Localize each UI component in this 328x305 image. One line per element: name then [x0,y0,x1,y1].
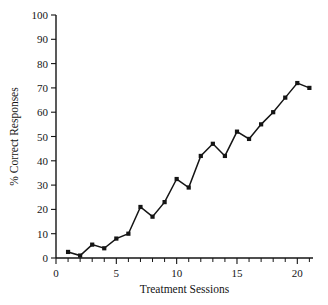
data-point [307,86,311,90]
data-point [66,250,70,254]
y-tick-label: 30 [37,179,49,191]
data-point [211,142,215,146]
data-line [68,83,309,256]
y-tick-label: 70 [37,82,49,94]
data-point [102,246,106,250]
data-point [187,185,191,189]
data-point [259,122,263,126]
data-point [78,253,82,257]
y-tick-label: 20 [37,203,49,215]
data-point [138,205,142,209]
data-point [247,137,251,141]
y-tick-label: 0 [43,252,49,264]
y-tick-label: 100 [32,9,49,21]
line-chart: 010203040506070809010005101520Treatment … [0,0,328,305]
data-point [150,215,154,219]
y-tick-label: 40 [37,155,49,167]
x-tick-label: 10 [171,267,183,279]
y-tick-label: 50 [37,131,49,143]
y-tick-label: 10 [37,228,49,240]
data-point [90,243,94,247]
x-tick-label: 20 [292,267,304,279]
x-tick-label: 5 [114,267,120,279]
y-tick-label: 90 [37,33,49,45]
y-tick-label: 80 [37,58,49,70]
data-point [223,154,227,158]
data-point [126,232,130,236]
data-point [162,200,166,204]
data-point [295,81,299,85]
y-axis-title: % Correct Responses [8,87,21,186]
data-point [175,177,179,181]
y-tick-label: 60 [37,106,49,118]
chart-figure: 010203040506070809010005101520Treatment … [0,0,328,305]
data-point [114,236,118,240]
data-point [271,110,275,114]
x-tick-label: 0 [53,267,59,279]
data-point [283,96,287,100]
data-point [235,130,239,134]
data-point [199,154,203,158]
x-axis-title: Treatment Sessions [140,283,230,295]
x-tick-label: 15 [231,267,243,279]
